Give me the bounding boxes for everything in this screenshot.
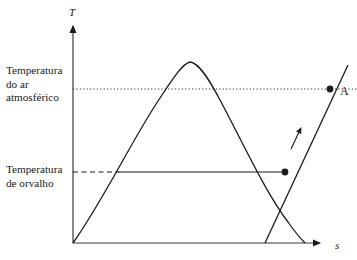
y-axis-label: T: [69, 6, 76, 18]
point-a-label: A: [340, 84, 349, 98]
process-line: [265, 65, 348, 243]
process-direction-arrow: [291, 130, 300, 149]
figure-canvas: T s A Temperatura do ar atmosférico Temp…: [0, 0, 357, 260]
ts-diagram: T s A: [0, 0, 357, 260]
point-a-marker: [327, 86, 334, 93]
atmospheric-temperature-label: Temperatura do ar atmosférico: [6, 64, 72, 105]
x-axis-label: s: [335, 239, 339, 251]
dew-point-marker: [282, 169, 289, 176]
dew-point-label: Temperatura de orvalho: [6, 163, 72, 190]
